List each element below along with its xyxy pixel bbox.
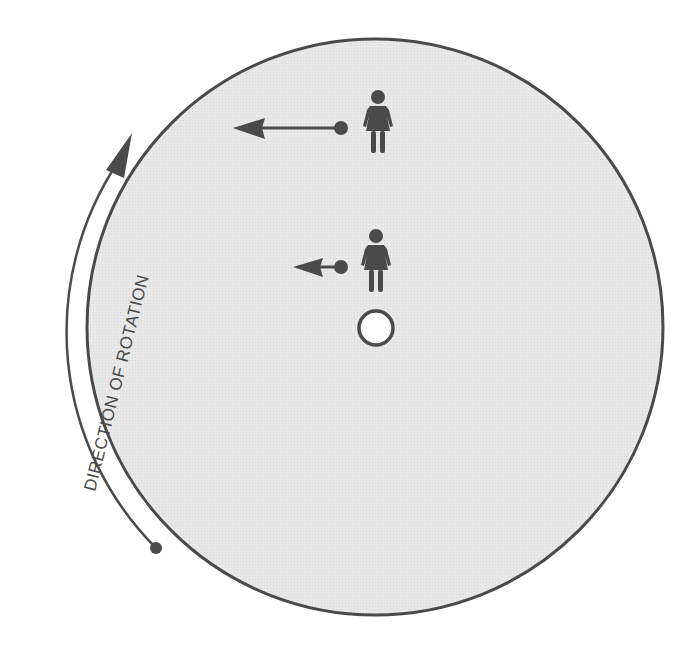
hub-axis — [359, 311, 393, 345]
arc-arrowhead-icon — [106, 133, 132, 178]
arrow-origin-dot — [334, 260, 348, 274]
rotating-disk-diagram: DIRECTION OF ROTATION — [0, 0, 696, 652]
arrow-origin-dot — [334, 121, 348, 135]
arc-start-dot — [150, 542, 162, 554]
